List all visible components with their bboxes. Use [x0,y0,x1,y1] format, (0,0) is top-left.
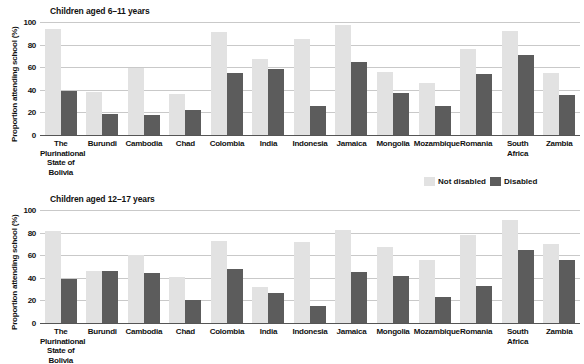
bar-group [40,22,82,135]
panel-title-6-11: Children aged 6–11 years [50,6,150,16]
bar-disabled [144,115,160,135]
bar-disabled [185,110,201,135]
x-axis-label: Jamaica [331,139,373,177]
x-axis-label-line: South Africa [497,327,539,346]
x-axis-label-line: Zambia [538,139,580,149]
x-axis-label: South Africa [497,327,539,364]
ytick-0: 0 [14,131,36,140]
bar-disabled [227,73,243,135]
chart-legend: Not disabled Disabled [424,177,537,186]
bar-not-disabled [86,92,102,135]
x-axis-label: Mozambique [414,327,456,364]
bar-disabled [61,91,77,135]
x-axis-label-line: State of Bolivia [40,158,82,177]
bar-disabled [518,55,534,135]
bar-not-disabled [45,231,61,323]
x-axis-label-line: Indonesia [289,327,331,337]
x-axis-label-line: Chad [165,327,207,337]
bar-group [40,210,82,323]
x-axis-label-line: Burundi [82,139,124,149]
bar-group [455,210,497,323]
plot-area-6-11 [40,22,580,135]
bar-group [289,210,331,323]
ytick-40: 40 [14,86,36,95]
x-axis-labels-12-17: ThePlurinationalState of BoliviaBurundiC… [40,327,580,364]
x-axis-label-line: Colombia [206,139,248,149]
bar-group [455,22,497,135]
bar-not-disabled [169,94,185,135]
x-axis-label: Indonesia [289,139,331,177]
ytick-0: 0 [14,319,36,328]
bar-disabled [559,260,575,323]
bar-not-disabled [335,25,351,135]
x-axis-label: Zambia [538,327,580,364]
bar-not-disabled [543,244,559,323]
bar-disabled [476,286,492,323]
x-axis-label-line: Cambodia [123,327,165,337]
bar-group [123,210,165,323]
bar-not-disabled [460,235,476,323]
x-axis-label: ThePlurinationalState of Bolivia [40,139,82,177]
bar-group [331,22,373,135]
x-axis-label: Mozambique [414,139,456,177]
x-axis-label-line: Plurinational [40,337,82,347]
legend-label-not-disabled: Not disabled [438,177,486,186]
x-axis-label: Burundi [82,327,124,364]
bar-group [248,22,290,135]
bar-group [206,210,248,323]
bar-group [123,22,165,135]
x-axis-label-line: India [248,139,290,149]
bar-group [372,210,414,323]
bar-disabled [476,74,492,135]
bar-group [289,22,331,135]
x-axis-label-line: Colombia [206,327,248,337]
ytick-100: 100 [14,206,36,215]
bar-not-disabled [86,271,102,323]
x-axis-label: Burundi [82,139,124,177]
bar-group [82,22,124,135]
bar-disabled [102,114,118,135]
x-axis-label-line: Romania [455,327,497,337]
x-axis-label-line: Mozambique [414,139,456,149]
x-axis-label: Cambodia [123,139,165,177]
x-axis-label: Colombia [206,139,248,177]
x-axis-label-line: India [248,327,290,337]
bar-not-disabled [543,73,559,135]
bar-disabled [61,279,77,323]
ytick-20: 20 [14,108,36,117]
bar-disabled [185,300,201,323]
bar-group [82,210,124,323]
bar-disabled [102,271,118,323]
bar-group [206,22,248,135]
x-axis-label-line: Burundi [82,327,124,337]
x-axis-label-line: Romania [455,139,497,149]
bar-disabled [227,269,243,323]
legend-item-disabled: Disabled [490,177,537,186]
x-axis-label: India [248,327,290,364]
x-axis-label-line: Chad [165,139,207,149]
ytick-80: 80 [14,229,36,238]
x-axis-label: Jamaica [331,327,373,364]
x-axis-label: ThePlurinationalState of Bolivia [40,327,82,364]
ytick-20: 20 [14,296,36,305]
x-axis-label: Chad [165,327,207,364]
x-axis-label-line: Cambodia [123,139,165,149]
bar-group-container-6-11 [40,22,580,135]
ytick-80: 80 [14,41,36,50]
bar-group-container-12-17 [40,210,580,323]
x-axis-label-line: Mongolia [372,139,414,149]
legend-swatch-disabled [490,177,501,186]
x-axis-label: Mongolia [372,327,414,364]
bar-not-disabled [252,59,268,135]
x-axis-label-line: The [40,327,82,337]
x-axis-label: Colombia [206,327,248,364]
legend-swatch-not-disabled [424,177,435,186]
x-axis-label-line: South Africa [497,139,539,158]
bar-disabled [351,272,367,323]
bar-not-disabled [294,39,310,135]
bar-not-disabled [377,247,393,323]
chart-panel-12-17: Children aged 12–17 years Proportion att… [0,194,584,364]
x-axis-label: Indonesia [289,327,331,364]
ytick-100: 100 [14,18,36,27]
x-axis-label-line: Mongolia [372,327,414,337]
